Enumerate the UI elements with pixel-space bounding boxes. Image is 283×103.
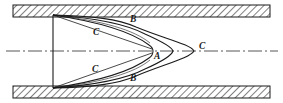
pipe-wall-top-rect: [13, 5, 270, 17]
pipe-wall-top: [13, 5, 270, 17]
profile-label-C-tip: C: [199, 42, 205, 52]
pipe-entrance-diagram: [0, 0, 283, 103]
wedge-edge-bottom: [53, 53, 152, 88]
pipe-wall-bottom-rect: [13, 86, 270, 98]
profile-label-C-top: C: [93, 28, 99, 38]
wedge-edge-top: [53, 15, 152, 49]
velocity-profile-A: [53, 15, 153, 88]
figure-canvas: B C C A C B: [0, 0, 283, 103]
profile-label-A: A: [154, 52, 160, 62]
pipe-wall-bottom: [13, 86, 270, 98]
profile-label-C-bottom: C: [92, 65, 98, 75]
profile-label-B-top: B: [130, 15, 136, 25]
profile-label-B-bottom: B: [130, 74, 136, 84]
